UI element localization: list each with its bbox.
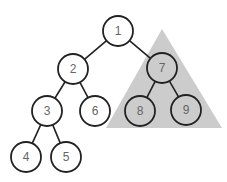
tree-diagram: 127368945 [0, 0, 227, 182]
node-label: 8 [137, 104, 144, 118]
node-label: 3 [44, 104, 51, 118]
node-label: 4 [23, 150, 30, 164]
node-label: 5 [63, 150, 70, 164]
tree-node-1: 1 [103, 16, 133, 46]
node-label: 6 [92, 104, 99, 118]
tree-node-6: 6 [80, 96, 110, 126]
tree-edge [129, 41, 150, 59]
tree-edge [80, 82, 88, 97]
tree-node-9: 9 [171, 95, 201, 125]
tree-edge [32, 125, 41, 144]
tree-node-2: 2 [58, 54, 88, 84]
node-label: 2 [70, 62, 77, 76]
tree-node-5: 5 [51, 142, 81, 172]
tree-node-7: 7 [147, 53, 177, 83]
tree-edge [84, 41, 106, 60]
tree-edge [53, 125, 61, 143]
tree-node-8: 8 [125, 96, 155, 126]
node-label: 1 [115, 24, 122, 38]
tree-node-3: 3 [32, 96, 62, 126]
node-label: 9 [183, 103, 190, 117]
node-label: 7 [159, 61, 166, 75]
tree-edge [55, 82, 65, 98]
tree-node-4: 4 [11, 142, 41, 172]
